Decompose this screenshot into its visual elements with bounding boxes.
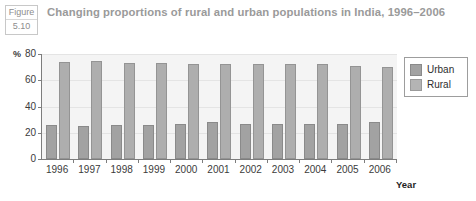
bar-group [203, 54, 235, 159]
x-axis-tick-label: 1998 [106, 164, 138, 175]
bar-urban [111, 125, 122, 159]
legend-item-urban[interactable]: Urban [410, 62, 463, 77]
bar-urban [240, 124, 251, 159]
x-axis-tick-label: 2005 [331, 164, 363, 175]
bar-chart: % 020406080 1996199719981999200020012002… [0, 46, 476, 201]
x-axis-tick-label: 1996 [41, 164, 73, 175]
figure-tag-word: Figure [6, 7, 37, 18]
x-axis-tick-label: 2003 [267, 164, 299, 175]
x-axis-tick-labels: 1996199719981999200020012002200320042005… [41, 164, 396, 175]
y-axis-tick-label: 80 [18, 49, 36, 59]
bar-urban [304, 124, 315, 159]
x-axis-tick-mark [396, 159, 397, 163]
bar-group [171, 54, 203, 159]
y-axis-tick-label: 0 [18, 154, 36, 164]
bar-urban [46, 125, 57, 159]
bar-rural [285, 64, 296, 159]
bar-rural [220, 64, 231, 159]
legend-label: Urban [427, 64, 454, 75]
x-axis-tick-label: 1999 [138, 164, 170, 175]
bar-group [74, 54, 106, 159]
bar-rural [91, 61, 102, 159]
x-axis-tick-mark [170, 159, 171, 163]
x-axis-tick-mark [106, 159, 107, 163]
x-axis-tick-mark [267, 159, 268, 163]
bar-group [332, 54, 364, 159]
bar-group [236, 54, 268, 159]
bar-groups [42, 54, 397, 159]
figure-tag-number: 5.10 [6, 19, 37, 32]
bar-urban [207, 122, 218, 159]
x-axis-tick-label: 2001 [202, 164, 234, 175]
bar-rural [188, 64, 199, 159]
y-axis-tick-label: 60 [18, 75, 36, 85]
bar-group [107, 54, 139, 159]
x-axis-tick-mark [331, 159, 332, 163]
bar-urban [78, 126, 89, 159]
bar-group [139, 54, 171, 159]
bar-urban [337, 124, 348, 159]
plot-area [41, 54, 397, 160]
bar-group [300, 54, 332, 159]
bar-urban [175, 124, 186, 159]
x-axis-tick-mark [138, 159, 139, 163]
bar-rural [382, 67, 393, 159]
x-axis-tick-label: 2000 [170, 164, 202, 175]
x-axis-tick-label: 2006 [364, 164, 396, 175]
legend-item-rural[interactable]: Rural [410, 77, 463, 92]
x-axis-tick-label: 1997 [73, 164, 105, 175]
figure-caption-block: Figure 5.10 Changing proportions of rura… [0, 0, 476, 46]
bar-rural [156, 63, 167, 159]
x-axis-tick-mark [73, 159, 74, 163]
bar-rural [350, 66, 361, 159]
bar-rural [59, 62, 70, 159]
legend-label: Rural [427, 79, 451, 90]
y-axis-tick-label: 20 [18, 128, 36, 138]
bar-rural [253, 64, 264, 159]
x-axis-tick-mark [364, 159, 365, 163]
y-axis-tick-mark [38, 159, 42, 160]
x-axis-tick-mark [202, 159, 203, 163]
bar-group [268, 54, 300, 159]
figure-caption-text: Changing proportions of rural and urban … [47, 4, 471, 21]
bar-urban [143, 125, 154, 159]
x-axis-tick-mark [235, 159, 236, 163]
bar-urban [369, 122, 380, 159]
x-axis-tick-mark [299, 159, 300, 163]
y-axis-tick-label: 40 [18, 102, 36, 112]
x-axis-tick-label: 2002 [235, 164, 267, 175]
chart-legend: UrbanRural [404, 57, 468, 97]
bar-group [365, 54, 397, 159]
x-axis-tick-label: 2004 [299, 164, 331, 175]
figure-number-tag: Figure 5.10 [5, 5, 38, 35]
bar-rural [317, 64, 328, 159]
legend-swatch-rural-icon [410, 79, 422, 91]
bar-rural [124, 63, 135, 159]
bar-group [42, 54, 74, 159]
x-axis-title: Year [396, 179, 472, 190]
legend-swatch-urban-icon [410, 64, 422, 76]
bar-urban [272, 124, 283, 159]
